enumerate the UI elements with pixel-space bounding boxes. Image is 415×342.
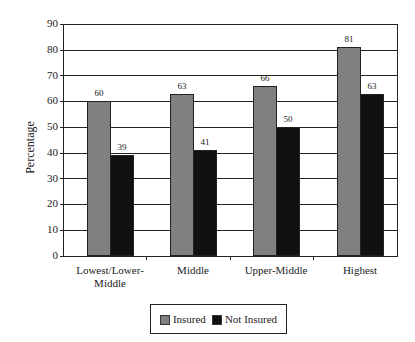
- gridline: [60, 24, 397, 25]
- plot-border-right: [397, 24, 398, 257]
- bar-insured: [337, 47, 361, 256]
- bar-insured: [170, 94, 194, 256]
- y-tick: 20: [38, 197, 58, 209]
- value-label: 41: [190, 137, 220, 147]
- bar-insured: [87, 101, 111, 256]
- category-label-line: Lowest/Lower-: [65, 264, 155, 277]
- value-label: 66: [250, 73, 280, 83]
- value-label: 50: [273, 114, 303, 124]
- y-tick: 0: [38, 249, 58, 261]
- y-tick: 90: [38, 17, 58, 29]
- x-tick-mark: [313, 256, 314, 260]
- value-label: 39: [107, 142, 137, 152]
- y-tick: 50: [38, 120, 58, 132]
- x-axis: [60, 256, 398, 257]
- x-tick-mark: [230, 256, 231, 260]
- y-tick: 10: [38, 223, 58, 235]
- y-tick: 70: [38, 69, 58, 81]
- bar-not-insured: [193, 150, 217, 256]
- value-label: 60: [84, 88, 114, 98]
- category-label: Middle: [148, 264, 238, 277]
- legend-item-not-insured: Not Insured: [212, 313, 277, 325]
- y-tick: 80: [38, 43, 58, 55]
- y-tick: 30: [38, 172, 58, 184]
- legend-swatch-not-insured: [212, 315, 222, 325]
- legend-item-insured: Insured: [160, 313, 206, 325]
- value-label: 63: [167, 81, 197, 91]
- category-label: Lowest/Lower- Middle: [65, 264, 155, 290]
- y-axis-label: Percentage: [23, 118, 38, 178]
- bar-not-insured: [276, 127, 300, 256]
- category-label: Upper-Middle: [231, 264, 321, 277]
- legend-swatch-insured: [160, 315, 170, 325]
- category-label-line: Middle: [65, 277, 155, 290]
- legend-label: Not Insured: [225, 313, 277, 325]
- x-tick-mark: [146, 256, 147, 260]
- y-tick: 40: [38, 146, 58, 158]
- legend: Insured Not Insured: [150, 304, 287, 334]
- bar-not-insured: [360, 94, 384, 256]
- y-axis: [63, 24, 64, 257]
- legend-label: Insured: [173, 313, 206, 325]
- bar-insured: [253, 86, 277, 256]
- value-label: 81: [334, 34, 364, 44]
- bar-not-insured: [110, 155, 134, 256]
- y-tick: 60: [38, 94, 58, 106]
- value-label: 63: [357, 81, 387, 91]
- category-label: Highest: [315, 264, 405, 277]
